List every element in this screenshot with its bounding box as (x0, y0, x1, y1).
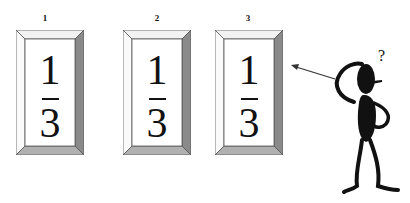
question-mark: ? (378, 47, 385, 64)
frame-1-label: 1 (35, 13, 55, 23)
fraction-frame-1: 1 3 (16, 30, 84, 155)
frame-3-label: 3 (238, 13, 258, 23)
confused-stick-figure-icon: ? (280, 40, 410, 203)
frame-2-label: 2 (147, 13, 167, 23)
arrow-icon (291, 64, 335, 79)
numerator: 1 (16, 49, 84, 91)
denominator: 3 (16, 102, 84, 144)
denominator: 3 (123, 102, 191, 144)
fraction-frame-3: 1 3 (215, 30, 283, 155)
denominator: 3 (215, 102, 283, 144)
fraction-frame-2: 1 3 (123, 30, 191, 155)
numerator: 1 (123, 49, 191, 91)
numerator: 1 (215, 49, 283, 91)
